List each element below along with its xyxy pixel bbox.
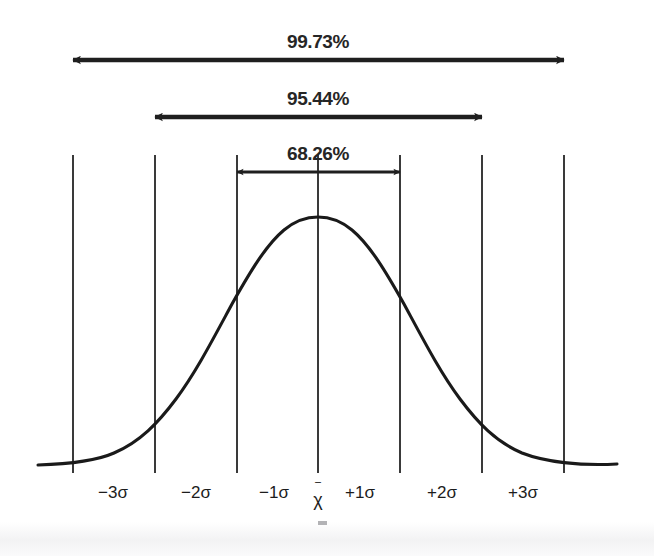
axis-label-minus-3-sigma: −3σ xyxy=(98,484,128,501)
interval-label-99-73: 99.73% xyxy=(287,32,349,51)
axis-label-minus-1-sigma: −1σ xyxy=(259,484,289,501)
axis-label-minus-2-sigma: −2σ xyxy=(181,484,211,501)
axis-label-plus-2-sigma: +2σ xyxy=(427,484,457,501)
interval-label-68-26: 68.26% xyxy=(287,144,349,163)
sigma-gridlines xyxy=(73,155,564,473)
axis-label-plus-1-sigma: +1σ xyxy=(345,484,375,501)
bell-curve-path xyxy=(38,217,617,465)
axis-label-mean: ‾ χ xyxy=(313,480,322,507)
normal-distribution-figure: 99.73% 95.44% 68.26% −3σ −2σ −1σ ‾ χ +1σ… xyxy=(0,0,654,556)
mean-chi-symbol: χ xyxy=(313,493,322,507)
axis-label-plus-3-sigma: +3σ xyxy=(508,484,538,501)
interval-label-95-44: 95.44% xyxy=(287,89,349,108)
distribution-chart-svg xyxy=(0,0,654,556)
